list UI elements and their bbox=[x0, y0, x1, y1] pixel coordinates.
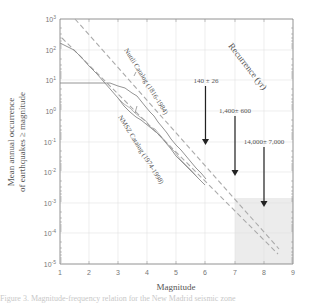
svg-text:102: 102 bbox=[45, 45, 56, 54]
x-tick-labels: 1 2 3 4 5 6 7 8 9 bbox=[58, 269, 295, 276]
nmsz-label: NMSZ Catalog (1974-1998) bbox=[116, 114, 165, 186]
svg-text:5: 5 bbox=[174, 269, 178, 276]
svg-text:3: 3 bbox=[116, 269, 120, 276]
arrow-label-140: 140 ± 26 bbox=[194, 77, 219, 85]
y-tick-labels: 103 102 101 100 10-1 10-2 10-3 10-4 10-5 bbox=[44, 14, 56, 268]
magnitude-frequency-chart: 103 102 101 100 10-1 10-2 10-3 10-4 10-5… bbox=[0, 0, 311, 295]
svg-text:7: 7 bbox=[233, 269, 237, 276]
svg-text:9: 9 bbox=[291, 269, 295, 276]
svg-text:Mean annual occurrence: Mean annual occurrence bbox=[6, 98, 16, 186]
x-axis-title: Magnitude bbox=[157, 282, 196, 292]
svg-text:1: 1 bbox=[58, 269, 62, 276]
svg-text:100: 100 bbox=[45, 106, 56, 115]
arrow-label-1400: 1,400± 600 bbox=[219, 107, 251, 115]
leader-lines bbox=[134, 72, 137, 113]
figure-caption: Figure 3. Magnitude-frequency relation f… bbox=[0, 294, 311, 305]
svg-text:4: 4 bbox=[145, 269, 149, 276]
svg-text:10-5: 10-5 bbox=[44, 259, 56, 268]
svg-text:10-1: 10-1 bbox=[44, 137, 56, 146]
svg-text:10-2: 10-2 bbox=[44, 167, 56, 176]
svg-text:101: 101 bbox=[45, 75, 56, 84]
svg-text:2: 2 bbox=[87, 269, 91, 276]
recurrence-title: Recurrence (yr) bbox=[226, 41, 269, 92]
svg-text:10-3: 10-3 bbox=[44, 198, 56, 207]
svg-text:10-4: 10-4 bbox=[44, 228, 56, 237]
y-axis-title: Mean annual occurrence of earthquakes ≥ … bbox=[6, 92, 27, 192]
arrow-label-14000: 14,000± 7,000 bbox=[244, 138, 285, 146]
nuttli-label: Nuttli Catalog (1816-1984) bbox=[122, 47, 170, 117]
svg-text:of earthquakes ≥ magnitude: of earthquakes ≥ magnitude bbox=[17, 92, 27, 192]
svg-text:8: 8 bbox=[262, 269, 266, 276]
svg-text:103: 103 bbox=[45, 14, 56, 23]
arrow-down-icon bbox=[232, 170, 239, 176]
svg-text:6: 6 bbox=[203, 269, 207, 276]
